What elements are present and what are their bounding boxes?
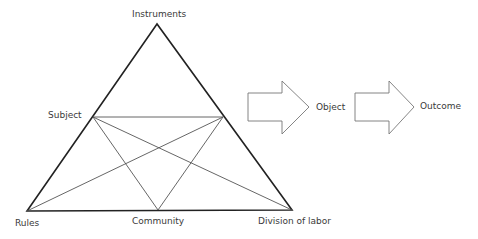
label-outcome: Outcome [420, 102, 461, 111]
subject-division-line [93, 117, 292, 210]
arrow-to-outcome-icon [355, 81, 414, 134]
arrow-to-object-icon [248, 81, 309, 134]
label-instruments: Instruments [132, 10, 186, 19]
label-object: Object [316, 103, 345, 112]
label-rules: Rules [15, 219, 39, 228]
object-community-line [158, 117, 223, 210]
label-community: Community [132, 217, 184, 226]
label-subject: Subject [48, 111, 82, 120]
label-division-of-labor: Division of labor [258, 217, 331, 226]
